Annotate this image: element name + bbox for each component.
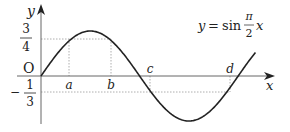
point-b-label: b [107, 78, 115, 92]
sine-graph: y x O 3 4 − 1 3 a b c d y = sin π 2 x [0, 0, 290, 132]
tick-minus-1-3: − 1 3 [10, 78, 36, 109]
y-axis-label: y [26, 3, 36, 19]
svg-text:π: π [244, 10, 253, 23]
svg-text:2: 2 [246, 27, 253, 40]
svg-text:sin: sin [222, 18, 242, 33]
svg-text:=: = [208, 18, 219, 33]
point-d-label: d [226, 62, 234, 76]
svg-text:x: x [256, 18, 264, 33]
tick-minus-1-3-num: 1 [26, 78, 34, 92]
point-a-label: a [65, 78, 72, 92]
equation-label: y = sin π 2 x [197, 10, 264, 40]
tick-minus-1-3-den: 3 [26, 95, 34, 109]
tick-3-4-num: 3 [22, 22, 30, 36]
origin-label: O [23, 60, 34, 76]
point-c-label: c [147, 62, 154, 76]
x-axis-label: x [266, 78, 274, 93]
tick-minus-1-3-sign: − [10, 85, 20, 99]
svg-text:y: y [197, 18, 206, 33]
tick-3-4: 3 4 [20, 22, 32, 54]
tick-3-4-den: 4 [22, 40, 30, 54]
